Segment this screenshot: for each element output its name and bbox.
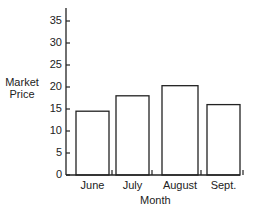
bar xyxy=(76,111,109,175)
x-axis-label: Month xyxy=(140,194,171,206)
bar xyxy=(207,105,240,175)
bar xyxy=(116,96,149,175)
plot-area xyxy=(0,0,263,209)
bar xyxy=(162,86,198,175)
